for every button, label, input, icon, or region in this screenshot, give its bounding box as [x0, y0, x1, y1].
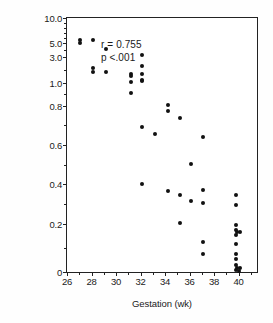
data-point: [140, 64, 144, 68]
y-axis-tick: [63, 224, 67, 225]
x-axis-tick-label: 40: [234, 276, 244, 287]
data-point: [178, 193, 182, 197]
y-axis-tick: [63, 57, 67, 58]
x-axis-tick-label: 26: [62, 276, 72, 287]
data-point: [189, 162, 193, 166]
y-axis-tick: [63, 18, 67, 19]
y-axis-tick-label: 0.8: [49, 100, 62, 111]
y-axis-minor-tick: [64, 70, 67, 71]
data-point: [234, 223, 238, 227]
data-point: [166, 103, 170, 107]
data-point: [201, 240, 205, 244]
x-axis-tick-label: 34: [160, 276, 170, 287]
x-axis-minor-tick: [177, 272, 178, 275]
x-axis-tick-label: 36: [184, 276, 194, 287]
y-axis-minor-tick: [64, 33, 67, 34]
y-axis-tick-label: 0.2: [49, 218, 62, 229]
p-value: p <.001: [101, 51, 142, 64]
data-point: [234, 242, 238, 246]
y-axis-minor-tick: [64, 125, 67, 126]
plot-area: 10.05.03.01.00.80.60.40.2026283032343638…: [66, 17, 258, 273]
correlation-value: r = 0.755: [101, 38, 142, 51]
data-point: [78, 41, 82, 45]
data-point: [234, 203, 238, 207]
y-axis-tick-label: 1.0: [49, 77, 62, 88]
data-point: [201, 252, 205, 256]
data-point: [140, 125, 144, 129]
data-point: [166, 189, 170, 193]
data-point: [201, 188, 205, 192]
data-point: [201, 135, 205, 139]
x-axis-minor-tick: [104, 272, 105, 275]
y-axis-tick-label: 0.6: [49, 140, 62, 151]
y-axis-minor-tick: [64, 38, 67, 39]
x-axis-minor-tick: [226, 272, 227, 275]
data-point: [91, 70, 95, 74]
y-axis-tick-label: 10.0: [44, 13, 62, 24]
y-axis-minor-tick: [64, 94, 67, 95]
x-axis-title: Gestation (wk): [66, 298, 258, 309]
scatter-plot-figure: 10.05.03.01.00.80.60.40.2026283032343638…: [0, 0, 273, 323]
x-axis-tick-label: 32: [135, 276, 145, 287]
y-axis-minor-tick: [64, 50, 67, 51]
x-axis-minor-tick: [202, 272, 203, 275]
data-point: [153, 132, 157, 136]
data-point: [201, 201, 205, 205]
data-point: [178, 116, 182, 120]
y-axis-tick: [63, 106, 67, 107]
data-point: [234, 193, 238, 197]
data-point: [129, 91, 133, 95]
data-point: [234, 233, 238, 237]
data-point: [140, 182, 144, 186]
y-axis-tick: [63, 43, 67, 44]
x-axis-minor-tick: [79, 272, 80, 275]
data-point: [91, 66, 95, 70]
data-point: [234, 252, 238, 256]
data-point: [140, 79, 144, 83]
statistics-annotation: r = 0.755 p <.001: [101, 38, 142, 64]
x-axis-minor-tick: [153, 272, 154, 275]
x-axis-minor-tick: [251, 272, 252, 275]
data-point: [91, 38, 95, 42]
y-axis-tick: [63, 145, 67, 146]
y-axis-tick: [63, 83, 67, 84]
data-point: [140, 72, 144, 76]
y-axis-minor-tick: [64, 28, 67, 29]
data-point: [234, 257, 238, 261]
y-axis-tick-label: 3.0: [49, 52, 62, 63]
y-axis-tick-label: 5.0: [49, 38, 62, 49]
y-axis-minor-tick: [64, 165, 67, 166]
y-axis-minor-tick: [64, 23, 67, 24]
data-point: [129, 74, 133, 78]
x-axis-tick-label: 38: [209, 276, 219, 287]
data-point: [129, 80, 133, 84]
y-axis-tick-label: 0.4: [49, 179, 62, 190]
data-point: [238, 230, 242, 234]
y-axis-minor-tick: [64, 248, 67, 249]
y-axis-minor-tick: [64, 204, 67, 205]
data-point: [237, 269, 241, 273]
y-axis-tick: [63, 184, 67, 185]
data-point: [178, 221, 182, 225]
x-axis-minor-tick: [128, 272, 129, 275]
data-point: [189, 199, 193, 203]
x-axis-tick-label: 28: [86, 276, 96, 287]
x-axis-tick-label: 30: [111, 276, 121, 287]
data-point: [166, 109, 170, 113]
data-point: [104, 70, 108, 74]
